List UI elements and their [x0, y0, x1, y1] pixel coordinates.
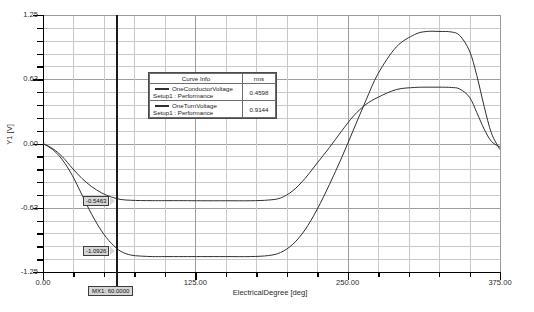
legend-table: Curve Info rms OneConductorVoltageSetup1… [149, 73, 276, 118]
legend-rms-value: 0.9144 [243, 101, 276, 118]
legend-header-curve-info: Curve Info [150, 74, 243, 84]
legend-row[interactable]: OneConductorVoltageSetup1 : Performance0… [150, 84, 276, 101]
y-axis-tick-label: 0.00 [23, 140, 38, 148]
legend-rms-value: 0.4598 [243, 84, 276, 101]
y-axis-tick-label: 0.63 [23, 75, 38, 83]
x-axis-tick [256, 272, 257, 277]
legend[interactable]: Curve Info rms OneConductorVoltageSetup1… [148, 72, 277, 119]
x-axis-tick [409, 272, 410, 277]
legend-setup-label: Setup1 : Performance [153, 92, 239, 99]
marker-tag-upper[interactable]: -0.5463 [83, 196, 109, 206]
legend-entry-name: OneConductorVoltageSetup1 : Performance [150, 84, 243, 101]
legend-color-swatch-icon [155, 105, 169, 107]
y-axis-tick-label: -1.25 [21, 268, 38, 276]
legend-color-swatch-icon [155, 88, 169, 90]
legend-header-rms: rms [243, 74, 276, 84]
x-axis-tick [73, 272, 74, 277]
y-axis-tick-label: 1.25 [23, 11, 38, 19]
x-axis-tick [287, 272, 288, 277]
x-marker-line[interactable] [116, 15, 117, 287]
x-axis-tick-label: 125.00 [170, 279, 220, 287]
x-axis-tick [104, 272, 105, 277]
y-axis-title: Y1 [V] [5, 110, 14, 160]
marker-tag-lower[interactable]: -1.0926 [83, 246, 109, 256]
x-axis-tick [439, 272, 440, 277]
x-marker-label[interactable]: MX1: 60.0000 [88, 286, 133, 296]
x-axis-tick [317, 272, 318, 277]
legend-body: OneConductorVoltageSetup1 : Performance0… [150, 84, 276, 118]
curve-layer [43, 15, 500, 272]
legend-trace-name: OneConductorVoltage [172, 85, 233, 92]
x-axis-tick [134, 272, 135, 277]
x-axis-tick [226, 272, 227, 277]
legend-trace-name: OneTurnVoltage [172, 102, 217, 109]
x-axis-tick [470, 272, 471, 277]
marker-arrow-upper-icon [110, 197, 115, 205]
legend-header-row: Curve Info rms [150, 74, 276, 84]
legend-row[interactable]: OneTurnVoltageSetup1 : Performance0.9144 [150, 101, 276, 118]
plot-border-bottom [43, 272, 501, 273]
legend-setup-label: Setup1 : Performance [153, 109, 239, 116]
series-one-turn-voltage [43, 31, 500, 256]
x-axis-title: ElectricalDegree [deg] [180, 288, 360, 297]
x-axis-tick-label: 375.00 [475, 279, 525, 287]
x-axis-tick [378, 272, 379, 277]
legend-entry-name: OneTurnVoltageSetup1 : Performance [150, 101, 243, 118]
x-axis-tick-label: 250.00 [323, 279, 373, 287]
marker-arrow-lower-icon [110, 247, 115, 255]
x-axis-tick [165, 272, 166, 277]
x-axis-tick-label: 0.00 [18, 279, 68, 287]
waveform-plot: 1.250.630.00-0.63-1.25 0.00125.00250.003… [0, 0, 534, 312]
y-axis-tick-label: -0.63 [21, 204, 38, 212]
plot-border-right [500, 15, 501, 273]
